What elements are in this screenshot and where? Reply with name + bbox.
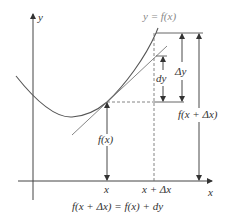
curve-label: y = f(x) <box>142 10 176 23</box>
function-curve <box>16 28 158 117</box>
x-axis-label: x <box>207 186 213 198</box>
fx-label: f(x) <box>98 133 114 146</box>
y-axis-label: y <box>37 11 43 23</box>
f-x-plus-dx-label: f(x + Δx) <box>178 108 218 121</box>
tangent-line <box>72 46 167 135</box>
dy-label: dy <box>156 72 167 84</box>
formula: f(x + Δx) = f(x) + dy <box>72 200 163 213</box>
diagram-canvas: y = f(x) y x x x + Δx f(x) dy Δy f(x + Δ… <box>0 0 234 218</box>
delta-y-label: Δy <box>174 65 186 77</box>
x-tick-label: x <box>103 183 109 195</box>
x-plus-dx-tick-label: x + Δx <box>141 183 171 195</box>
